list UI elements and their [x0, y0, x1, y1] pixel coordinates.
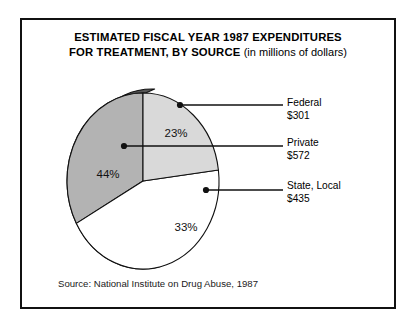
- slice-label-private: 44%: [96, 168, 119, 180]
- source-note: Source: National Institute on Drug Abuse…: [58, 278, 258, 289]
- slice-label-federal: 23%: [164, 127, 187, 139]
- leader-line-federal: [177, 102, 283, 108]
- legend-label-state-local: State, Local: [287, 180, 341, 193]
- legend-item-state-local[interactable]: State, Local $435: [287, 180, 341, 205]
- legend-value-private: $572: [287, 150, 319, 163]
- legend-item-private[interactable]: Private $572: [287, 137, 319, 162]
- figure-container: ESTIMATED FISCAL YEAR 1987 EXPENDITURES …: [0, 0, 416, 328]
- legend-label-private: Private: [287, 137, 319, 150]
- legend-label-federal: Federal: [287, 97, 322, 110]
- legend-item-federal[interactable]: Federal $301: [287, 97, 322, 122]
- legend-value-state-local: $435: [287, 193, 341, 206]
- legend-value-federal: $301: [287, 110, 322, 123]
- slice-label-state-local: 33%: [174, 221, 197, 233]
